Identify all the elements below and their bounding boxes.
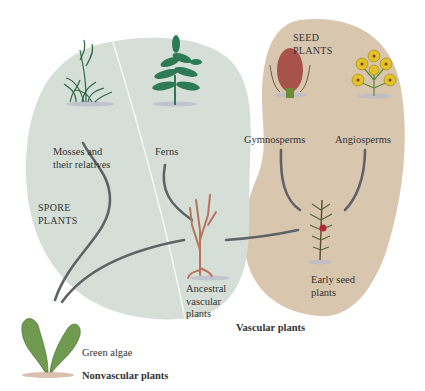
node-gymnosperms: Gymnosperms <box>244 134 305 147</box>
green-algae-icon <box>22 319 80 372</box>
seed-plants-label: SEED PLANTS <box>293 32 333 57</box>
node-green-algae: Green algae <box>82 347 132 360</box>
diagram-canvas <box>0 0 425 391</box>
node-early-seed: Early seed plants <box>311 274 355 299</box>
node-ancestral-vascular: Ancestral vascular plants <box>186 283 226 321</box>
vascular-plants-label: Vascular plants <box>236 322 305 335</box>
plant-evolution-diagram: SEED PLANTS SPORE PLANTS Mosses and thei… <box>0 0 425 391</box>
spore-plants-label: SPORE PLANTS <box>38 202 78 227</box>
node-angiosperms: Angiosperms <box>335 134 391 147</box>
nonvascular-plants-label: Nonvascular plants <box>82 370 168 383</box>
node-ferns: Ferns <box>155 146 178 159</box>
node-mosses: Mosses and their relatives <box>53 146 110 171</box>
